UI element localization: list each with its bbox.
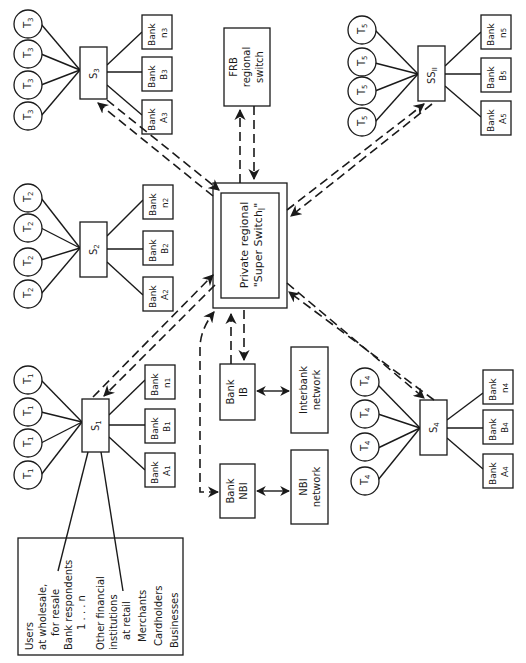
svg-text:at retail: at retail	[121, 601, 132, 640]
svg-text:Bank: Bank	[488, 462, 498, 485]
bank-node: BankA2	[143, 277, 173, 311]
terminal-node: T4	[351, 433, 379, 461]
svg-text:B3: B3	[159, 69, 169, 80]
terminal-node: T5	[348, 77, 376, 105]
terminal-node: T4	[351, 368, 379, 396]
terminal-node: T2	[14, 280, 42, 308]
frb-regional-switch-node: FRB regional switch	[224, 28, 270, 106]
svg-text:Bank: Bank	[147, 23, 157, 46]
svg-text:Other financial: Other financial	[95, 576, 106, 650]
terminal-node: T1	[14, 461, 42, 489]
super-switch-label-1: Private regional	[238, 202, 251, 288]
bank-node: BankA1	[145, 453, 175, 487]
svg-text:Users: Users	[24, 622, 35, 650]
banking-network-diagram: Private regional "Super SwitchI" FRB reg…	[0, 0, 526, 663]
cluster-s4: T4 T4 T4 T4 S4 Bankn4 BankB4 BankA4	[351, 368, 513, 495]
svg-text:Bank: Bank	[225, 478, 236, 503]
svg-text:institutions: institutions	[108, 594, 119, 650]
svg-text:switch: switch	[254, 51, 265, 83]
svg-text:NBI: NBI	[298, 478, 309, 495]
terminal-node: T1	[14, 366, 42, 394]
bank-ib-node: Bank IB	[220, 364, 255, 420]
terminal-node: T5	[348, 48, 376, 76]
terminal-node: T1	[14, 398, 42, 426]
svg-text:Bank: Bank	[147, 108, 157, 131]
bank-nbi-node: Bank NBI	[220, 464, 255, 518]
super-switch-node: Private regional "Super SwitchI"	[213, 183, 287, 308]
svg-text:A2: A2	[160, 289, 170, 300]
switch-node-s4: S4	[420, 400, 447, 455]
terminal-node: T3	[14, 40, 42, 68]
cluster-s3: T3 T3 T3 T3 S3 Bankn3 BankB3 BankA3	[14, 10, 172, 134]
svg-text:Bank: Bank	[488, 378, 498, 401]
cluster-s1: T1 T1 T1 T1 S1 Bankn1 BankB1 BankA1	[14, 365, 175, 489]
switch-node-ss2: SSII	[418, 46, 445, 101]
bank-node: BankB2	[143, 231, 173, 265]
terminal-node: T2	[14, 214, 42, 242]
svg-text:Merchants: Merchants	[137, 590, 148, 642]
svg-text:Bank: Bank	[486, 66, 496, 89]
terminal-node: T3	[14, 71, 42, 99]
cluster-ss2: T5 T5 T5 T5 SSII Bankn5 BankB5 BankA5	[348, 15, 511, 136]
dashed-link-nbi-switch	[200, 312, 218, 492]
bank-node: Bankn4	[483, 370, 513, 404]
switch-node-s1: S1	[82, 399, 109, 452]
svg-text:Bank: Bank	[225, 379, 236, 404]
svg-text:A4: A4	[500, 466, 510, 477]
svg-text:n4: n4	[500, 382, 510, 393]
terminal-node: T4	[351, 467, 379, 495]
terminal-node: T3	[14, 102, 42, 130]
terminal-node: T2	[14, 184, 42, 212]
terminal-node: T4	[351, 400, 379, 428]
svg-text:network: network	[311, 466, 322, 507]
svg-text:A3: A3	[159, 112, 169, 123]
svg-text:Bank: Bank	[147, 65, 157, 88]
svg-text:B5: B5	[498, 70, 508, 81]
switch-node-s2: S2	[80, 222, 107, 277]
svg-text:at wholesale,: at wholesale,	[37, 584, 48, 650]
svg-text:NBI: NBI	[238, 482, 249, 499]
bank-node: Bankn3	[142, 15, 172, 49]
terminal-node: T5	[348, 108, 376, 136]
bank-node: BankB3	[142, 57, 172, 91]
bank-node: BankA3	[142, 100, 172, 134]
svg-text:n2: n2	[160, 198, 170, 208]
terminal-node: T1	[14, 429, 42, 457]
svg-text:Bank: Bank	[486, 109, 496, 132]
bank-node: Bankn5	[481, 15, 511, 49]
interbank-network-node: Interbank network	[291, 347, 328, 433]
svg-text:Cardholders: Cardholders	[153, 586, 164, 646]
svg-text:A1: A1	[162, 465, 172, 476]
bank-node: BankA4	[483, 454, 513, 488]
svg-text:Bank: Bank	[148, 285, 158, 308]
svg-text:network: network	[311, 369, 322, 410]
bank-node: Bankn1	[145, 365, 175, 399]
svg-text:Bank respondents: Bank respondents	[63, 560, 74, 650]
svg-text:n1: n1	[162, 378, 172, 388]
svg-text:regional: regional	[241, 47, 252, 88]
svg-text:B2: B2	[160, 243, 170, 254]
svg-text:Bank: Bank	[148, 193, 158, 216]
svg-text:for resale: for resale	[50, 589, 61, 636]
svg-text:Bank: Bank	[150, 373, 160, 396]
bank-node: BankB4	[483, 410, 513, 444]
terminal-node: T5	[348, 16, 376, 44]
bank-node: BankB1	[145, 409, 175, 443]
svg-text:Bank: Bank	[148, 239, 158, 262]
svg-text:Interbank: Interbank	[298, 366, 309, 414]
svg-text:B4: B4	[500, 422, 510, 433]
switch-node-s3: S3	[80, 47, 107, 99]
svg-text:IB: IB	[238, 387, 249, 397]
svg-text:A5: A5	[498, 113, 508, 124]
svg-text:Bank: Bank	[486, 23, 496, 46]
svg-text:n5: n5	[498, 28, 508, 38]
svg-text:FRB: FRB	[228, 57, 239, 77]
svg-text:Bank: Bank	[150, 417, 160, 440]
bank-node: BankB5	[481, 58, 511, 92]
nbi-network-node: NBI network	[291, 450, 328, 524]
svg-text:Bank: Bank	[488, 418, 498, 441]
bank-node: Bankn2	[143, 185, 173, 219]
svg-text:Businesses: Businesses	[169, 593, 180, 648]
cluster-s2: T2 T2 T2 T2 S2 Bankn2 BankB2 BankA2	[14, 184, 173, 311]
svg-text:Bank: Bank	[150, 461, 160, 484]
